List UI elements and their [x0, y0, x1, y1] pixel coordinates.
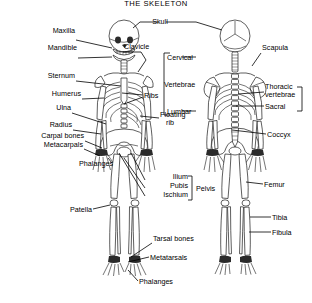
label-patella: Patella	[70, 205, 92, 214]
label-clavicle: Clavicle	[124, 42, 149, 51]
label-ischium: Ischium	[163, 190, 188, 199]
label-fibula: Fibula	[272, 228, 292, 237]
label-femur: Femur	[264, 180, 285, 189]
label-phalanges-foot: Phalanges	[139, 277, 173, 286]
label-scapula: Scapula	[262, 43, 288, 52]
label-pelvis: Pelvis	[196, 184, 216, 193]
label-ulna: Ulna	[56, 103, 71, 112]
skeleton-diagram: THE SKELETON	[0, 0, 312, 303]
label-sacral: Sacral	[265, 102, 286, 111]
label-sternum: Sternum	[48, 71, 75, 80]
label-radius: Radius	[50, 120, 73, 129]
label-coccyx: Coccyx	[267, 130, 291, 139]
label-cervical: Cervical	[167, 53, 193, 62]
label-phalanges-hand: Phalanges	[79, 159, 113, 168]
label-lumbar: Lumbar	[167, 107, 192, 116]
label-tarsal-bones: Tarsal bones	[153, 234, 194, 243]
label-skull: Skull	[152, 17, 168, 26]
label-floating-rib-line2: rib	[166, 118, 174, 127]
label-humerus: Humerus	[52, 89, 82, 98]
label-tibia: Tibia	[272, 213, 287, 222]
label-maxilla: Maxilla	[53, 26, 75, 35]
label-metatarsals: Metatarsals	[150, 253, 188, 262]
label-pubis: Pubis	[170, 181, 188, 190]
page-title: THE SKELETON	[124, 0, 188, 8]
label-thoracic-line2: vertebrae	[265, 90, 295, 99]
label-carpal-bones: Carpal bones	[41, 131, 84, 140]
label-ribs: Ribs	[144, 91, 159, 100]
label-vertebrae: Vertebrae	[164, 80, 195, 89]
label-metacarpals: Metacarpals	[44, 140, 84, 149]
label-ilium: Ilium	[173, 172, 188, 181]
label-mandible: Mandible	[48, 43, 77, 52]
